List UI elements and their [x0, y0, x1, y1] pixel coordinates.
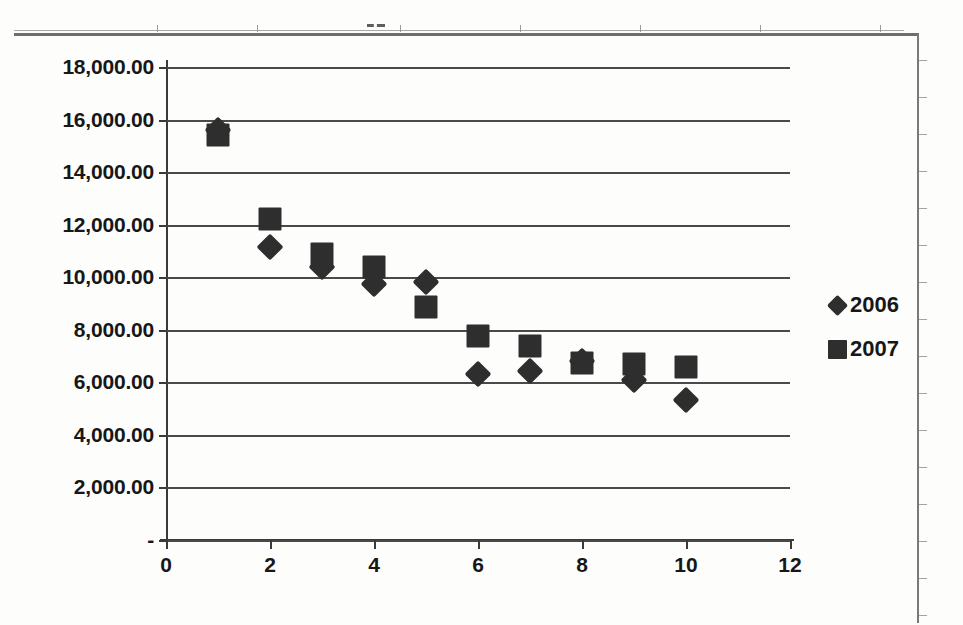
scan-dash-artifact: [367, 24, 385, 27]
x-axis-tick: [582, 540, 584, 549]
data-point-2007: [623, 352, 646, 375]
x-axis-tick-label: 10: [674, 553, 697, 577]
y-axis-tick: [159, 120, 167, 122]
data-point-2007: [467, 324, 490, 347]
scan-tick-right: [919, 245, 927, 246]
scan-tick-right: [919, 393, 927, 394]
data-point-2007: [415, 295, 438, 318]
scan-tick-right: [919, 60, 927, 61]
scan-tick-right: [919, 615, 927, 616]
y-axis-tick: [159, 330, 167, 332]
y-axis-tick-label: 2,000.00: [74, 475, 154, 499]
scan-tick: [520, 25, 521, 32]
y-axis-tick-label: 18,000.00: [62, 55, 154, 79]
scan-tick-right: [919, 134, 927, 135]
scan-tick: [257, 25, 258, 32]
scan-tick-right: [919, 430, 927, 431]
y-axis-tick-label: -: [147, 528, 154, 552]
data-point-2007: [259, 208, 282, 231]
plot-area: -2,000.004,000.006,000.008,000.0010,000.…: [166, 67, 790, 540]
x-axis-tick: [270, 540, 272, 549]
y-axis-tick: [159, 172, 167, 174]
scan-tick-right: [919, 97, 927, 98]
y-axis-tick-label: 6,000.00: [74, 370, 154, 394]
scan-tick-right: [919, 578, 927, 579]
y-axis-tick: [159, 277, 167, 279]
data-point-2007: [207, 124, 230, 147]
scan-tick-right: [919, 541, 927, 542]
y-axis-tick: [159, 67, 167, 69]
x-axis-tick: [686, 540, 688, 549]
x-axis-tick-label: 12: [778, 553, 801, 577]
data-point-2007: [675, 356, 698, 379]
legend-label-2006: 2006: [850, 292, 899, 318]
gridline: [166, 487, 790, 489]
scan-tick-right: [919, 356, 927, 357]
scan-top-rule-light: [14, 30, 904, 31]
scan-tick: [760, 25, 761, 32]
scan-tick-right: [919, 467, 927, 468]
scan-right-rule: [917, 33, 919, 623]
legend: 2006 2007: [828, 283, 899, 371]
legend-item-2007: 2007: [828, 327, 899, 371]
y-axis-tick-label: 16,000.00: [62, 108, 154, 132]
scan-tick-right: [919, 319, 927, 320]
scan-tick-right: [919, 504, 927, 505]
y-axis-tick: [159, 487, 167, 489]
x-axis-tick-label: 8: [576, 553, 588, 577]
data-point-2007: [311, 242, 334, 265]
scan-tick: [640, 25, 641, 32]
y-axis-tick-label: 10,000.00: [62, 265, 154, 289]
y-axis-tick: [159, 225, 167, 227]
x-axis-tick: [478, 540, 480, 549]
x-axis-tick-label: 6: [472, 553, 484, 577]
y-axis-tick: [159, 435, 167, 437]
y-axis-tick: [159, 382, 167, 384]
data-point-2006: [673, 387, 700, 414]
scan-tick-right: [919, 282, 927, 283]
gridline: [166, 120, 790, 122]
scan-tick: [880, 25, 881, 32]
scan-tick: [157, 25, 158, 32]
chart-screenshot: -2,000.004,000.006,000.008,000.0010,000.…: [0, 0, 963, 625]
legend-item-2006: 2006: [828, 283, 899, 327]
data-point-2006: [257, 234, 284, 261]
y-axis-tick-label: 4,000.00: [74, 423, 154, 447]
gridline: [166, 277, 790, 279]
data-point-2006: [413, 269, 440, 296]
scan-tick-right: [919, 208, 927, 209]
gridline: [166, 172, 790, 174]
legend-label-2007: 2007: [850, 336, 899, 362]
data-point-2007: [571, 351, 594, 374]
scan-top-rule: [14, 33, 919, 36]
diamond-marker-icon: [827, 294, 848, 315]
y-axis-tick-label: 8,000.00: [74, 318, 154, 342]
scan-tick: [400, 25, 401, 32]
data-point-2006: [517, 358, 544, 385]
y-axis-tick-label: 12,000.00: [62, 213, 154, 237]
scan-tick-right: [919, 171, 927, 172]
y-axis-tick-label: 14,000.00: [62, 160, 154, 184]
x-axis-tick-label: 0: [160, 553, 172, 577]
x-axis-tick-label: 4: [368, 553, 380, 577]
x-axis-tick: [790, 540, 792, 549]
x-axis-tick-label: 2: [264, 553, 276, 577]
gridline: [166, 67, 790, 69]
gridline: [166, 435, 790, 437]
data-point-2007: [363, 255, 386, 278]
x-axis-tick: [166, 540, 168, 549]
data-point-2007: [519, 334, 542, 357]
x-axis-tick: [374, 540, 376, 549]
square-marker-icon: [828, 340, 847, 359]
